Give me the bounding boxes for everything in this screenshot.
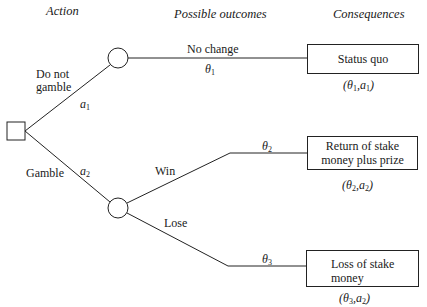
outcome-symbol-theta2: θ2: [262, 139, 272, 157]
outcome-symbol-theta1: θ1: [205, 62, 215, 80]
outcome-label-win: Win: [155, 164, 175, 178]
consequence-text: Status quo: [338, 52, 388, 66]
consequence-text-line1: Return of stake: [326, 139, 399, 153]
outcome-symbol-theta3: θ3: [262, 252, 272, 270]
consequence-pair-theta3-a2: (θ3,a2): [339, 291, 370, 307]
header-consequences: Consequences: [333, 7, 405, 21]
header-action: Action: [46, 4, 79, 18]
action-symbol-a2: a2: [80, 164, 90, 182]
consequence-pair-theta2-a2: (θ2,a2): [342, 178, 373, 196]
action-symbol-a1: a1: [80, 97, 90, 115]
header-possible-outcomes: Possible outcomes: [174, 7, 267, 21]
consequence-text-line2: money: [331, 271, 418, 285]
action-label-gamble-line2: gamble: [36, 80, 71, 94]
branch-lose: [127, 213, 307, 266]
action-label-gamble: Gamble: [26, 166, 64, 180]
consequence-box-status-quo: Status quo: [307, 44, 419, 74]
consequence-box-loss-of-stake: Loss of stake money: [306, 250, 419, 287]
chance-node-top: [108, 48, 128, 68]
chance-node-bottom: [108, 198, 128, 218]
consequence-pair-theta1-a1: (θ1,a1): [343, 78, 374, 96]
consequence-text-line1: Loss of stake: [331, 257, 418, 271]
outcome-label-no-change: No change: [187, 42, 239, 56]
consequence-box-return-of-stake: Return of stake money plus prize: [307, 136, 418, 170]
consequence-text-line2: money plus prize: [321, 153, 404, 167]
outcome-label-lose: Lose: [164, 216, 187, 230]
branch-win: [127, 153, 307, 203]
action-label-do-not: Do not: [36, 67, 69, 81]
decision-node-square: [7, 122, 25, 140]
